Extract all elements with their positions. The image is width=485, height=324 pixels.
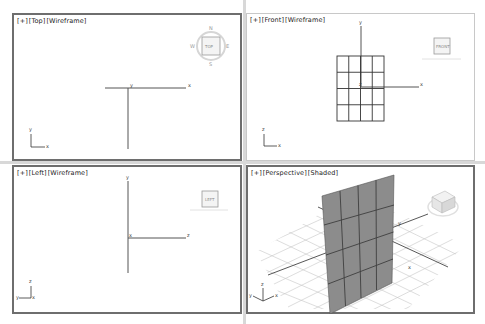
axis-tripod — [31, 134, 45, 147]
axis-label-y: y — [126, 174, 129, 180]
tripod-label-y: y — [29, 126, 32, 132]
viewport-label: [+][Perspective][Shaded] — [251, 169, 339, 177]
tripod-label-z: z — [261, 281, 264, 287]
axis-label-y: y — [130, 82, 133, 88]
compass-west: W — [190, 43, 195, 49]
viewport-canvas — [14, 15, 242, 161]
viewcube-face-label[interactable]: LEFT — [205, 197, 214, 202]
axis-label-x: x — [188, 82, 191, 88]
world-axes — [361, 26, 419, 87]
viewport-top[interactable]: [+][Top][Wireframe] x y N S W E TOP y x — [12, 13, 242, 161]
axis-label-z: z — [187, 232, 190, 238]
tripod-label-x: x — [46, 143, 49, 149]
axis-label-y: y — [359, 19, 362, 25]
axis-tripod — [253, 288, 274, 301]
view-type-menu[interactable]: [Perspective] — [263, 169, 307, 177]
viewport-canvas — [14, 167, 242, 314]
viewcube[interactable] — [428, 191, 458, 216]
world-axes — [128, 181, 186, 273]
axis-label-origin: x — [129, 232, 132, 238]
viewcube-face-label[interactable]: FRONT — [436, 44, 450, 49]
viewport-left[interactable]: [+][Left][Wireframe] y z x LEFT z y x — [12, 165, 242, 314]
viewport-perspective[interactable]: [+][Perspective][Shaded] — [246, 165, 475, 314]
viewport-canvas — [248, 167, 475, 314]
viewcube-face-label[interactable]: TOP — [205, 44, 213, 49]
tripod-label-x: x — [275, 292, 278, 298]
viewport-canvas — [247, 14, 476, 162]
world-axes — [105, 88, 186, 149]
axis-label-origin: z — [359, 81, 362, 87]
plane-object[interactable] — [322, 175, 394, 314]
viewport-front[interactable]: [+][Front][Wireframe] y x z FRONT z x — [246, 13, 475, 161]
compass-south: S — [209, 61, 212, 67]
tripod-label-z: z — [29, 278, 32, 284]
axis-label-y: y — [398, 220, 401, 226]
plane-wireframe[interactable] — [337, 56, 384, 121]
axis-label-x: x — [408, 264, 411, 270]
axis-label-x: x — [420, 81, 423, 87]
tripod-label-z: z — [262, 126, 265, 132]
compass-north: N — [209, 25, 213, 31]
tripod-label-y: y — [16, 294, 19, 300]
shading-mode-menu[interactable]: [Shaded] — [308, 169, 338, 177]
axis-tripod — [19, 286, 31, 298]
tripod-label-x: x — [32, 294, 35, 300]
axis-tripod — [264, 134, 277, 146]
tripod-label-y: y — [249, 292, 252, 298]
tripod-label-x: x — [278, 142, 281, 148]
viewport-menu-button[interactable]: [+] — [251, 169, 262, 177]
compass-east: E — [226, 43, 229, 49]
